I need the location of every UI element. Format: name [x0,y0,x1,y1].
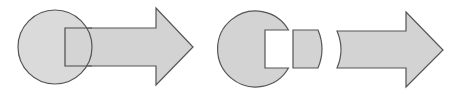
separated-shapes-group [218,11,443,87]
lens-piece-shape [293,30,322,68]
combined-shapes-group [18,8,193,85]
notched-circle-shape [218,11,289,87]
diagram-canvas [0,0,455,94]
circle-shape [18,10,92,84]
concave-arrow-shape [337,12,443,87]
